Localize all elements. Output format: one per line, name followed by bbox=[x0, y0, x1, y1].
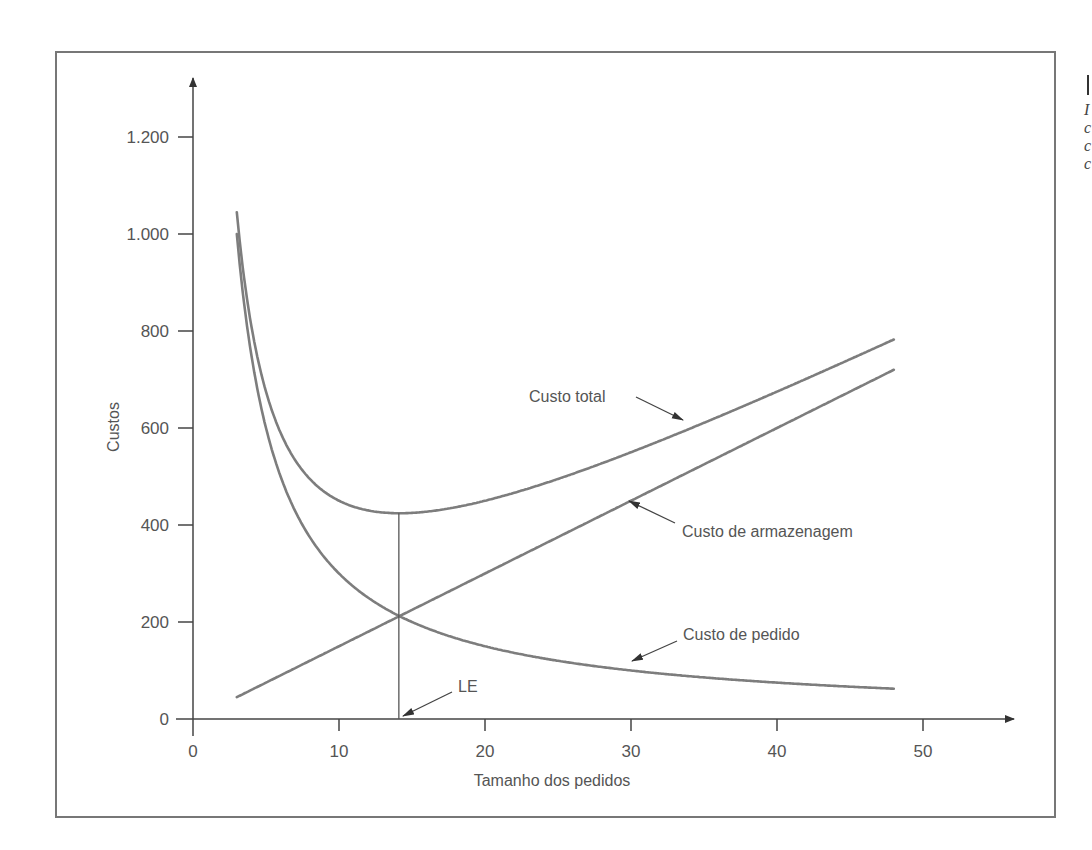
chart: 02004006008001.0001.200 01020304050 Cust… bbox=[0, 0, 1092, 850]
x-tick-label: 20 bbox=[476, 742, 495, 761]
page-edge-fragment: I c c c bbox=[1083, 75, 1091, 172]
y-tick-label: 800 bbox=[141, 322, 169, 341]
x-tick-label: 10 bbox=[330, 742, 349, 761]
annotation-total-label: Custo total bbox=[529, 388, 605, 405]
x-tick-label: 40 bbox=[768, 742, 787, 761]
annotation-total-arrow bbox=[636, 397, 683, 420]
y-tick-label: 200 bbox=[141, 613, 169, 632]
y-tick-label: 1.200 bbox=[126, 128, 169, 147]
svg-text:I: I bbox=[1083, 101, 1090, 118]
x-axis-ticks: 01020304050 bbox=[188, 719, 932, 761]
annotation-le-arrow bbox=[403, 692, 452, 716]
annotation-storage: Custo de armazenagem bbox=[629, 501, 853, 540]
annotation-le-label: LE bbox=[458, 678, 478, 695]
curves bbox=[237, 212, 894, 697]
annotation-storage-arrow bbox=[629, 501, 675, 523]
y-axis-title: Custos bbox=[105, 402, 122, 452]
svg-text:c: c bbox=[1084, 119, 1091, 136]
x-axis-title: Tamanho dos pedidos bbox=[474, 772, 631, 789]
series-custo-de-pedido bbox=[237, 234, 894, 689]
annotation-order-label: Custo de pedido bbox=[683, 626, 800, 643]
y-tick-label: 600 bbox=[141, 419, 169, 438]
svg-text:c: c bbox=[1084, 137, 1091, 154]
x-tick-label: 30 bbox=[622, 742, 641, 761]
axes bbox=[176, 78, 1014, 736]
y-tick-label: 0 bbox=[160, 710, 169, 729]
annotation-le: LE bbox=[403, 678, 478, 716]
series-custo-total bbox=[237, 212, 894, 513]
annotation-order-arrow bbox=[632, 641, 677, 661]
annotation-order: Custo de pedido bbox=[632, 626, 800, 661]
x-tick-label: 50 bbox=[914, 742, 933, 761]
y-tick-label: 1.000 bbox=[126, 225, 169, 244]
y-axis-ticks: 02004006008001.0001.200 bbox=[126, 128, 193, 729]
y-tick-label: 400 bbox=[141, 516, 169, 535]
svg-text:c: c bbox=[1084, 155, 1091, 172]
annotation-storage-label: Custo de armazenagem bbox=[682, 523, 853, 540]
chart-frame bbox=[56, 52, 1055, 817]
annotation-total: Custo total bbox=[529, 388, 683, 420]
x-tick-label: 0 bbox=[188, 742, 197, 761]
